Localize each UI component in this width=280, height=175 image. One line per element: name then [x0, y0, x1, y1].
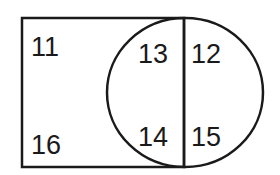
venn-diagram: 11 13 12 16 14 15 [0, 0, 280, 175]
region-label-11: 11 [31, 32, 59, 62]
region-label-13: 13 [138, 39, 168, 69]
region-label-15: 15 [191, 122, 221, 152]
region-label-12: 12 [191, 39, 221, 69]
region-label-14: 14 [138, 122, 168, 152]
region-label-16: 16 [31, 130, 61, 160]
